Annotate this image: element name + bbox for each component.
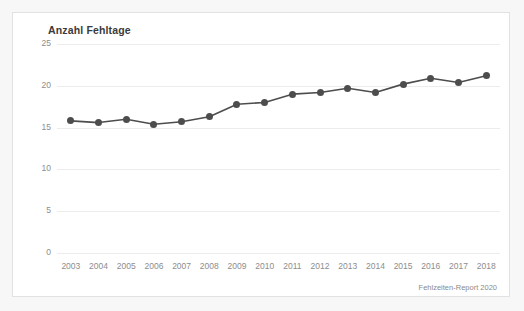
- data-point-marker[interactable]: [206, 113, 213, 120]
- data-point-marker[interactable]: [400, 81, 407, 88]
- data-point-marker[interactable]: [123, 116, 130, 123]
- data-point-marker[interactable]: [344, 85, 351, 92]
- data-point-marker[interactable]: [289, 91, 296, 98]
- series-line: [13, 13, 511, 298]
- chart-card: Anzahl Fehltage 051015202520032004200520…: [12, 12, 510, 297]
- data-point-marker[interactable]: [317, 89, 324, 96]
- chart-plot-area: Anzahl Fehltage 051015202520032004200520…: [13, 13, 511, 298]
- series-layer: [13, 13, 511, 298]
- data-point-marker[interactable]: [427, 75, 434, 82]
- chart-source-note: Fehlzeiten-Report 2020: [419, 283, 497, 292]
- data-point-marker[interactable]: [483, 72, 490, 79]
- data-point-marker[interactable]: [455, 79, 462, 86]
- data-point-marker[interactable]: [372, 89, 379, 96]
